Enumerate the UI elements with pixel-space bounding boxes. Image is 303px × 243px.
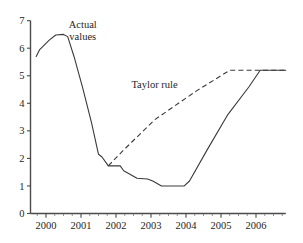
y-axis: 01234567 [19,15,30,219]
taylor-rule-label: Taylor rule [131,79,178,90]
x-axis-tick-label: 2000 [36,220,57,231]
interest-rate-line-chart: 01234567 2000200120022003200420052006 Ac… [0,0,303,243]
chart-figure: 01234567 2000200120022003200420052006 Ac… [0,0,303,243]
y-axis-tick-label: 3 [19,125,24,136]
y-axis-tick-label: 0 [19,208,24,219]
x-axis-tick-label: 2006 [246,220,267,231]
x-axis-tick-label: 2004 [176,220,198,231]
y-axis-tick-label: 5 [19,70,24,81]
y-axis-tick-label: 7 [19,15,24,26]
series-layer [36,34,286,186]
y-axis-tick-label: 1 [19,181,24,192]
actual-values-label-line1: Actual [69,19,97,30]
x-axis-tick-label: 2003 [141,220,162,231]
x-axis-tick-label: 2005 [211,220,232,231]
x-axis: 2000200120022003200420052006 [31,214,286,232]
x-axis-tick-label: 2002 [106,220,127,231]
y-axis-tick-label: 4 [19,98,25,109]
x-axis-tick-label: 2001 [71,220,92,231]
actual-values-label-line2: values [69,31,96,42]
annotation-layer: ActualvaluesTaylor rule [69,19,178,91]
y-axis-tick-label: 2 [19,153,24,164]
series-actual-values [36,34,286,186]
y-axis-tick-label: 6 [19,43,24,54]
